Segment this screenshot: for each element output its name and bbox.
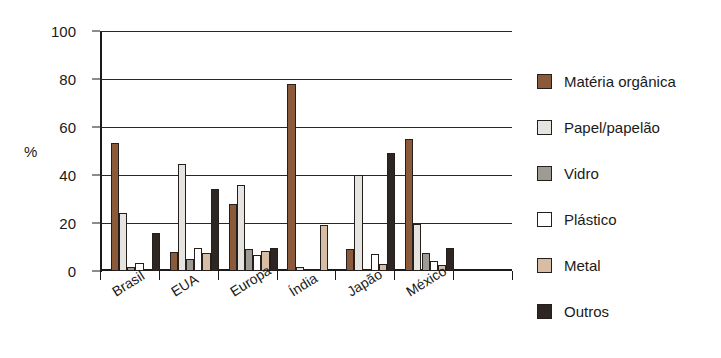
bar-group (170, 31, 219, 271)
x-tick-mark (100, 271, 101, 280)
legend-label: Papel/papelão (564, 119, 660, 136)
legend-item[interactable]: Outros (537, 302, 609, 320)
bar (354, 175, 362, 271)
y-tick-label: 80 (30, 72, 76, 87)
legend-label: Matéria orgânica (564, 73, 676, 90)
plot-area (100, 31, 512, 271)
bar (379, 264, 387, 271)
x-tick-mark (394, 271, 395, 280)
bar (405, 139, 413, 271)
legend-label: Metal (564, 257, 601, 274)
bar-group (346, 31, 395, 271)
y-tick-label: 0 (30, 264, 76, 279)
legend-item[interactable]: Plástico (537, 210, 617, 228)
bar-group (405, 31, 454, 271)
y-axis-title: % (24, 143, 38, 160)
bar (446, 248, 454, 271)
bar (237, 185, 245, 271)
bar (312, 269, 320, 271)
bar (202, 253, 210, 271)
bar (245, 249, 253, 271)
legend-label: Vidro (564, 165, 599, 182)
y-tick-mark (92, 127, 100, 128)
bar (320, 225, 328, 271)
legend-swatch-icon (537, 120, 552, 135)
legend-label: Plástico (564, 211, 617, 228)
bar (229, 204, 237, 271)
bar (186, 259, 194, 271)
bar (287, 84, 295, 271)
bar (152, 233, 160, 271)
bar (178, 164, 186, 271)
x-tick-mark (218, 271, 219, 280)
legend-swatch-icon (537, 258, 552, 273)
bar (387, 153, 395, 271)
y-tick-label: 100 (30, 24, 76, 39)
bar (422, 253, 430, 271)
y-tick-label: 40 (30, 168, 76, 183)
x-axis-label-brasil: Brasil (109, 267, 147, 299)
y-tick-mark (92, 271, 100, 272)
x-tick-mark (453, 271, 454, 280)
x-tick-mark (277, 271, 278, 280)
bar (194, 248, 202, 271)
legend-item[interactable]: Matéria orgânica (537, 72, 676, 90)
bar (413, 224, 421, 271)
bar (270, 248, 278, 271)
legend-label: Outros (564, 303, 609, 320)
y-tick-mark (92, 223, 100, 224)
y-tick-mark (92, 79, 100, 80)
legend-swatch-icon (537, 212, 552, 227)
bar (346, 249, 354, 271)
bar (111, 143, 119, 271)
bar-group (287, 31, 336, 271)
y-tick-label: 60 (30, 120, 76, 135)
y-tick-label: 20 (30, 216, 76, 231)
y-tick-mark (92, 175, 100, 176)
x-axis-label-ndia: Índia (286, 270, 320, 300)
legend-swatch-icon (537, 304, 552, 319)
bar (296, 267, 304, 271)
bar (144, 269, 152, 271)
legend-swatch-icon (537, 74, 552, 89)
legend-item[interactable]: Metal (537, 256, 601, 274)
x-tick-mark (512, 271, 513, 280)
legend-item[interactable]: Vidro (537, 164, 599, 182)
bar (211, 189, 219, 271)
legend-item[interactable]: Papel/papelão (537, 118, 660, 136)
y-tick-mark (92, 31, 100, 32)
bar (170, 252, 178, 271)
x-tick-mark (335, 271, 336, 280)
x-axis-label-eua: EUA (168, 271, 201, 300)
bar (119, 213, 127, 271)
x-tick-mark (159, 271, 160, 280)
legend-swatch-icon (537, 166, 552, 181)
bar-group (229, 31, 278, 271)
bars-layer (100, 31, 512, 271)
bar-group (111, 31, 160, 271)
bar-chart-figure: % 020406080100 BrasilEUAEuropaÍndiaJapão… (0, 0, 721, 358)
